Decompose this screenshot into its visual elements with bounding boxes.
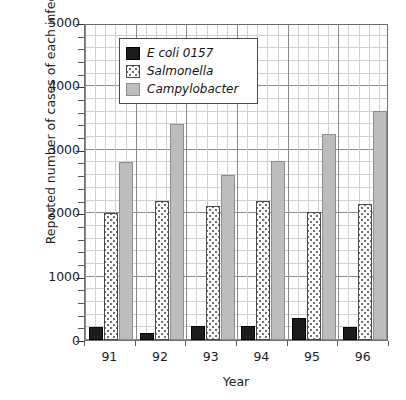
x-tick-label-92: 92 (140, 349, 180, 364)
x-tick-mark (236, 341, 237, 346)
grid-line-minor-h (85, 123, 387, 124)
y-tick-label-4000: 4000 (32, 81, 80, 91)
y-tick-label-5000: 5000 (32, 18, 80, 28)
bar-salmonella-95 (307, 212, 321, 340)
y-tick-label-0: 0 (32, 336, 80, 346)
bar-ecoli-94 (241, 326, 255, 340)
bar-ecoli-96 (343, 327, 357, 340)
bar-ecoli-95 (292, 318, 306, 340)
grid-line-minor-h (85, 35, 387, 36)
bar-salmonella-94 (256, 201, 270, 340)
y-tick-label-3000: 3000 (32, 145, 80, 155)
x-tick-label-95: 95 (292, 349, 332, 364)
x-tick-mark (84, 341, 85, 346)
bar-chart-figure: Reported number of cases of each infecti… (0, 0, 406, 400)
x-tick-mark (388, 341, 389, 346)
grid-line-minor-v (348, 25, 349, 340)
dotted-square-icon (126, 65, 140, 78)
legend-label-salmonella: Salmonella (147, 64, 213, 78)
bar-salmonella-96 (358, 204, 372, 340)
grid-line-minor-v (95, 25, 96, 340)
bar-salmonella-92 (155, 201, 169, 340)
y-tick-major (76, 151, 84, 152)
grid-line-major-v (338, 25, 339, 340)
y-tick-major (76, 214, 84, 215)
x-tick-label-96: 96 (343, 349, 383, 364)
bar-campylobacter-96 (373, 111, 387, 341)
legend-item-salmonella: Salmonella (126, 62, 250, 80)
bar-campylobacter-91 (119, 162, 133, 340)
bar-salmonella-91 (104, 213, 118, 340)
x-axis-tick-labels: 919293949596 (84, 349, 388, 369)
x-tick-mark (287, 341, 288, 346)
y-tick-label-2000: 2000 (32, 208, 80, 218)
legend-item-e-coli: E coli 0157 (126, 44, 250, 62)
x-axis-tick-marks (84, 341, 389, 348)
legend-item-campylobacter: Campylobacter (126, 80, 250, 98)
legend: E coli 0157 Salmonella Campylobacter (119, 38, 258, 104)
y-tick-major (76, 278, 84, 279)
bar-ecoli-91 (89, 327, 103, 340)
grid-line-major-v (85, 25, 86, 340)
x-tick-label-94: 94 (241, 349, 281, 364)
gray-square-icon (126, 83, 140, 96)
x-tick-label-93: 93 (191, 349, 231, 364)
x-axis-title: Year (84, 374, 388, 389)
bar-ecoli-92 (140, 333, 154, 340)
black-square-icon (126, 47, 140, 60)
grid-line-minor-v (298, 25, 299, 340)
bar-campylobacter-94 (271, 161, 285, 340)
x-tick-mark (337, 341, 338, 346)
y-axis-tick-labels: 5000 4000 3000 2000 1000 0 (28, 0, 80, 400)
grid-line-minor-h (85, 136, 387, 137)
grid-line-minor-h (85, 111, 387, 112)
bar-campylobacter-93 (221, 175, 235, 340)
grid-line-major-h (85, 149, 387, 150)
bar-salmonella-93 (206, 206, 220, 340)
x-tick-mark (185, 341, 186, 346)
grid-line-major-v (288, 25, 289, 340)
bar-ecoli-93 (191, 326, 205, 340)
y-tick-major (76, 24, 84, 25)
x-tick-mark (135, 341, 136, 346)
y-tick-label-1000: 1000 (32, 272, 80, 282)
bar-campylobacter-92 (170, 124, 184, 340)
y-axis-tick-marks (76, 24, 84, 342)
legend-label-e-coli: E coli 0157 (147, 46, 213, 60)
y-tick-major (76, 87, 84, 88)
y-tick-major (76, 341, 84, 342)
legend-label-campylobacter: Campylobacter (147, 82, 238, 96)
bar-campylobacter-95 (322, 134, 336, 340)
x-tick-label-91: 91 (89, 349, 129, 364)
